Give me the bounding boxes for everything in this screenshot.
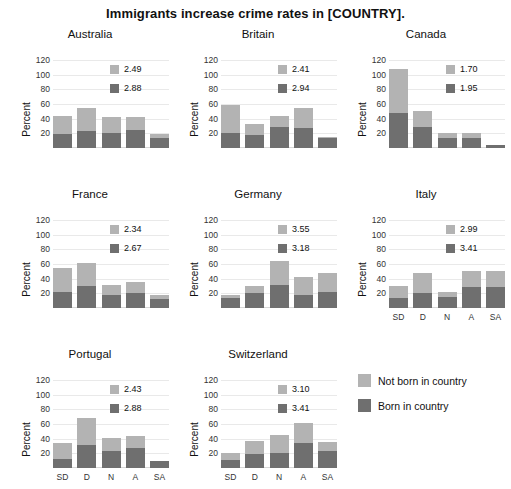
y-axis-tick: 60 bbox=[209, 419, 218, 429]
bar-portugal-sd bbox=[53, 380, 72, 468]
panel-legend-row-not-born: 2.34 bbox=[110, 224, 142, 234]
panel-legend-portugal: 2.432.88 bbox=[110, 384, 142, 413]
panel-mean-not-born: 3.55 bbox=[292, 224, 310, 234]
bar-segment-not-born bbox=[77, 418, 96, 444]
bar-segment-born bbox=[126, 293, 145, 308]
bar-segment-born bbox=[126, 448, 145, 468]
bar-segment-not-born bbox=[294, 277, 313, 295]
panel-australia: AustraliaPercent204060801001202.492.88 bbox=[6, 28, 174, 188]
bar-segment-born bbox=[245, 454, 264, 468]
bar-segment-born bbox=[270, 127, 289, 148]
bar-switzerland-d bbox=[245, 380, 264, 468]
bar-segment-not-born bbox=[389, 286, 408, 298]
panel-britain: BritainPercent204060801001202.412.94 bbox=[174, 28, 342, 188]
bar-segment-not-born bbox=[102, 285, 121, 295]
bar-germany-sd bbox=[221, 220, 240, 308]
y-axis-tick: 20 bbox=[41, 288, 50, 298]
panel-mean-not-born: 2.49 bbox=[124, 64, 142, 74]
bar-segment-born bbox=[150, 138, 169, 148]
panel-legend-canada: 1.701.95 bbox=[446, 64, 478, 93]
panel-mean-born: 2.67 bbox=[124, 243, 142, 253]
x-axis-tick-sa: SA bbox=[486, 312, 505, 322]
bar-france-sd bbox=[53, 220, 72, 308]
bar-australia-sd bbox=[53, 60, 72, 148]
bar-segment-not-born bbox=[245, 124, 264, 135]
bar-france-d bbox=[77, 220, 96, 308]
bar-segment-not-born bbox=[270, 435, 289, 453]
bar-segment-born bbox=[221, 460, 240, 468]
bar-portugal-d bbox=[77, 380, 96, 468]
bar-segment-not-born bbox=[318, 442, 337, 452]
bar-segment-not-born bbox=[389, 69, 408, 113]
x-axis-ticks: SDDNASA bbox=[53, 472, 169, 482]
panel-legend-row-not-born: 2.41 bbox=[278, 64, 310, 74]
bar-segment-born bbox=[245, 135, 264, 148]
bar-segment-born bbox=[53, 292, 72, 308]
panel-legend-britain: 2.412.94 bbox=[278, 64, 310, 93]
y-axis-tick: 100 bbox=[204, 70, 218, 80]
y-axis-tick: 120 bbox=[36, 375, 50, 385]
y-axis-tick: 120 bbox=[36, 55, 50, 65]
panel-title-britain: Britain bbox=[174, 28, 342, 40]
panel-legend-row-born: 2.94 bbox=[278, 83, 310, 93]
bar-segment-not-born bbox=[221, 105, 240, 132]
legend-swatch-icon-born bbox=[110, 244, 119, 253]
y-axis-tick: 100 bbox=[372, 230, 386, 240]
bar-segment-born bbox=[126, 130, 145, 148]
bar-australia-sa bbox=[150, 60, 169, 148]
panel-title-italy: Italy bbox=[342, 188, 510, 200]
y-axis-label: Percent bbox=[21, 244, 32, 316]
legend-swatch-icon-born bbox=[110, 404, 119, 413]
panel-title-switzerland: Switzerland bbox=[174, 348, 342, 360]
legend-swatch-icon-born bbox=[446, 244, 455, 253]
bar-segment-born bbox=[77, 445, 96, 468]
bar-segment-not-born bbox=[270, 116, 289, 127]
bar-segment-born bbox=[270, 285, 289, 308]
y-axis-tick: 60 bbox=[41, 419, 50, 429]
bar-segment-not-born bbox=[413, 111, 432, 127]
bar-segment-not-born bbox=[221, 453, 240, 460]
bar-germany-sa bbox=[318, 220, 337, 308]
bar-segment-born bbox=[462, 138, 481, 148]
bar-segment-not-born bbox=[294, 423, 313, 443]
bar-britain-sd bbox=[221, 60, 240, 148]
y-axis-tick: 60 bbox=[209, 259, 218, 269]
bar-segment-born bbox=[150, 299, 169, 308]
bar-segment-born bbox=[102, 295, 121, 308]
bar-segment-born bbox=[486, 287, 505, 308]
y-axis-tick: 100 bbox=[204, 390, 218, 400]
legend-label: Born in country bbox=[378, 400, 449, 412]
bar-segment-not-born bbox=[77, 108, 96, 131]
bar-segment-born bbox=[462, 287, 481, 308]
y-axis-tick: 80 bbox=[41, 84, 50, 94]
panel-mean-born: 3.41 bbox=[292, 403, 310, 413]
legend-swatch-icon-not-born bbox=[278, 65, 287, 74]
y-axis-tick: 80 bbox=[209, 244, 218, 254]
y-axis-tick: 100 bbox=[204, 230, 218, 240]
bar-segment-born bbox=[438, 138, 457, 148]
panel-title-portugal: Portugal bbox=[6, 348, 174, 360]
bar-segment-born bbox=[53, 134, 72, 148]
y-axis-label: Percent bbox=[21, 404, 32, 476]
y-axis-tick: 120 bbox=[372, 55, 386, 65]
bar-segment-not-born bbox=[126, 436, 145, 448]
bar-segment-born bbox=[389, 298, 408, 308]
x-axis-ticks: SDDNASA bbox=[389, 312, 505, 322]
panel-italy: ItalyPercent20406080100120SDDNASA2.993.4… bbox=[342, 188, 510, 348]
y-axis-tick: 40 bbox=[209, 274, 218, 284]
panel-germany: GermanyPercent204060801001203.553.18 bbox=[174, 188, 342, 348]
y-axis-tick: 40 bbox=[377, 274, 386, 284]
panel-legend-row-not-born: 3.10 bbox=[278, 384, 310, 394]
legend-swatch-icon-born bbox=[278, 404, 287, 413]
y-axis-tick: 20 bbox=[377, 128, 386, 138]
y-axis-tick: 20 bbox=[377, 288, 386, 298]
panel-france: FrancePercent204060801001202.342.67 bbox=[6, 188, 174, 348]
bar-segment-born bbox=[318, 138, 337, 148]
bar-segment-born bbox=[245, 293, 264, 308]
bar-segment-born bbox=[77, 131, 96, 148]
legend-item-born: Born in country bbox=[358, 399, 467, 412]
y-axis-tick: 40 bbox=[41, 434, 50, 444]
panel-legend-row-born: 3.41 bbox=[278, 403, 310, 413]
bar-canada-sd bbox=[389, 60, 408, 148]
y-axis-tick: 20 bbox=[41, 128, 50, 138]
